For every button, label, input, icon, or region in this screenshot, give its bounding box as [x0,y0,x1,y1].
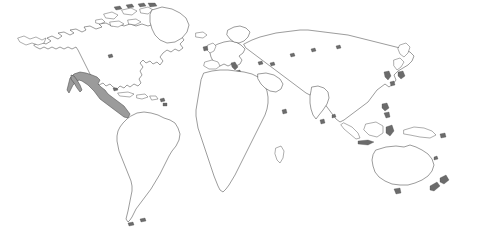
region-ireland [203,46,208,51]
world-map-figure [0,0,477,229]
world-map-svg [0,0,477,229]
region-sri-lanka [320,119,325,124]
